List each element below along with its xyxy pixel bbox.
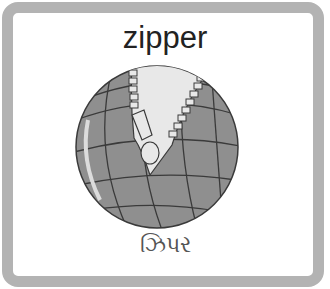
card-title: zipper bbox=[0, 20, 330, 56]
card-subtitle: ઝિપર bbox=[0, 232, 330, 257]
globe-with-zipper-icon bbox=[72, 60, 242, 232]
